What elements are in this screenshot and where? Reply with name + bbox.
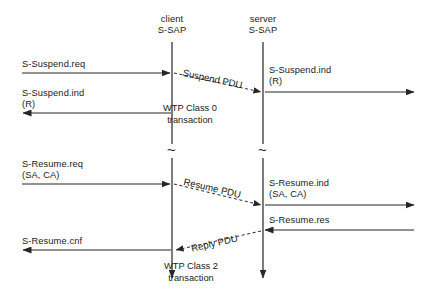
label-s-resume-cnf: S-Resume.cnf bbox=[22, 236, 82, 247]
lifeline-head-client-line1: client bbox=[148, 14, 196, 25]
caption-wtp-class-2-line1: WTP Class 2 bbox=[145, 260, 237, 272]
lifeline-head-client: client S-SAP bbox=[148, 14, 196, 36]
label-s-resume-res: S-Resume.res bbox=[269, 215, 330, 226]
label-s-resume-ind-param: (SA, CA) bbox=[269, 189, 306, 200]
caption-wtp-class-0-line1: WTP Class 0 bbox=[144, 102, 236, 114]
label-s-suspend-ind-left: S-Suspend.ind bbox=[22, 88, 84, 99]
label-s-suspend-req: S-Suspend.req bbox=[22, 59, 85, 70]
label-s-suspend-ind-right-param: (R) bbox=[269, 76, 282, 87]
wtp-sequence-diagram: client S-SAP server S-SAP ~ ~ S-Suspend.… bbox=[0, 0, 434, 304]
label-s-resume-ind: S-Resume.ind bbox=[269, 178, 329, 189]
label-s-resume-req-param: (SA, CA) bbox=[22, 170, 59, 181]
diagram-canvas bbox=[0, 0, 434, 304]
caption-wtp-class-2: WTP Class 2 transaction bbox=[145, 260, 237, 284]
break-marker-client: ~ bbox=[167, 142, 176, 157]
break-marker-server: ~ bbox=[258, 142, 267, 157]
lifeline-head-server-line1: server bbox=[239, 14, 287, 25]
label-s-suspend-ind-left-param: (R) bbox=[22, 99, 35, 110]
label-s-resume-req: S-Resume.req bbox=[22, 159, 83, 170]
lifeline-head-server-line2: S-SAP bbox=[239, 25, 287, 36]
lifeline-head-server: server S-SAP bbox=[239, 14, 287, 36]
lifeline-head-client-line2: S-SAP bbox=[148, 25, 196, 36]
caption-wtp-class-0: WTP Class 0 transaction bbox=[144, 102, 236, 126]
caption-wtp-class-2-line2: transaction bbox=[145, 272, 237, 284]
caption-wtp-class-0-line2: transaction bbox=[144, 114, 236, 126]
label-s-suspend-ind-right: S-Suspend.ind bbox=[269, 65, 331, 76]
